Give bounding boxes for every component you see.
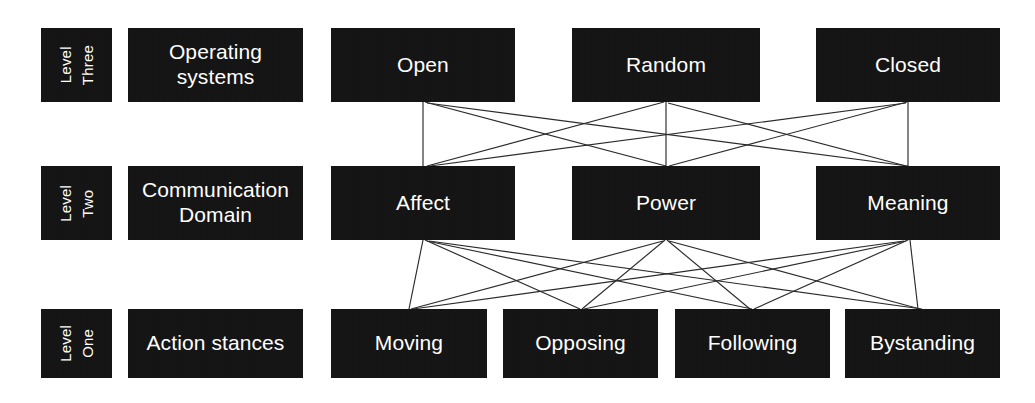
node-bystanding-label: Bystanding bbox=[864, 331, 981, 356]
edge-closed-affect bbox=[430, 103, 906, 166]
row-label-communication-domain: Communication Domain bbox=[128, 166, 303, 240]
edge-random-meaning bbox=[668, 103, 906, 166]
node-moving-label: Moving bbox=[369, 331, 449, 356]
edge-affect-moving bbox=[409, 240, 423, 309]
edge-meaning-opposing bbox=[584, 241, 906, 309]
node-open[interactable]: Open bbox=[331, 28, 515, 102]
edge-affect-bystanding bbox=[429, 241, 922, 309]
row-label-action-stances-text: Action stances bbox=[141, 331, 291, 356]
edge-power-moving bbox=[411, 241, 663, 309]
node-following-label: Following bbox=[702, 331, 804, 356]
edge-open-power bbox=[425, 102, 666, 166]
edge-power-following bbox=[667, 240, 750, 309]
edge-meaning-bystanding bbox=[910, 240, 918, 309]
level-two-tag: Level Two bbox=[41, 166, 112, 240]
edge-open-meaning bbox=[427, 103, 908, 166]
node-affect[interactable]: Affect bbox=[331, 166, 515, 240]
level-two-tag-label: Level Two bbox=[49, 185, 105, 222]
level-three-tag: Level Three bbox=[41, 28, 112, 102]
edge-closed-power bbox=[669, 102, 907, 166]
node-moving[interactable]: Moving bbox=[331, 309, 487, 378]
node-power[interactable]: Power bbox=[572, 166, 760, 240]
edge-affect-opposing bbox=[425, 240, 580, 309]
level-one-tag: Level One bbox=[41, 309, 112, 378]
node-meaning[interactable]: Meaning bbox=[816, 166, 1000, 240]
edge-affect-following bbox=[427, 241, 752, 309]
node-open-label: Open bbox=[391, 53, 455, 78]
node-opposing[interactable]: Opposing bbox=[503, 309, 658, 378]
node-following[interactable]: Following bbox=[675, 309, 830, 378]
diagram-canvas: Level Three Operating systems Open Rando… bbox=[0, 0, 1035, 403]
edge-meaning-moving bbox=[413, 241, 904, 309]
node-closed-label: Closed bbox=[869, 53, 947, 78]
node-random[interactable]: Random bbox=[572, 28, 760, 102]
node-affect-label: Affect bbox=[390, 191, 456, 216]
node-meaning-label: Meaning bbox=[861, 191, 954, 216]
edge-random-affect bbox=[427, 102, 664, 166]
level-three-tag-label: Level Three bbox=[49, 45, 105, 85]
node-bystanding[interactable]: Bystanding bbox=[845, 309, 1000, 378]
node-closed[interactable]: Closed bbox=[816, 28, 1000, 102]
row-label-operating-systems: Operating systems bbox=[128, 28, 303, 102]
node-opposing-label: Opposing bbox=[529, 331, 632, 356]
edge-meaning-following bbox=[754, 240, 908, 309]
edge-power-opposing bbox=[582, 240, 665, 309]
level-one-tag-label: Level One bbox=[49, 325, 105, 362]
node-random-label: Random bbox=[620, 53, 712, 78]
row-label-action-stances: Action stances bbox=[128, 309, 303, 378]
node-power-label: Power bbox=[630, 191, 702, 216]
row-label-communication-domain-text: Communication Domain bbox=[128, 178, 303, 228]
row-label-operating-systems-text: Operating systems bbox=[128, 40, 303, 90]
edge-power-bystanding bbox=[669, 241, 920, 309]
